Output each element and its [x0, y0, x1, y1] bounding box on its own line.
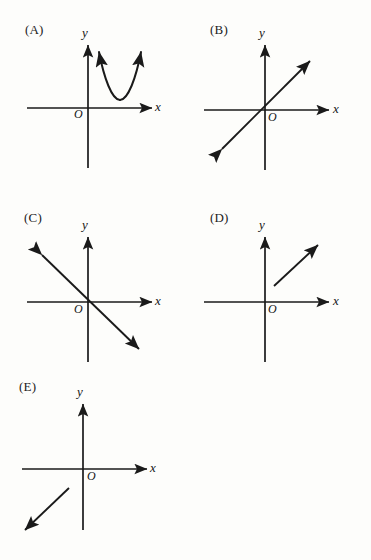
graph-a [0, 0, 186, 190]
graph-b [186, 0, 371, 190]
graph-e [0, 370, 186, 560]
origin-label-c: O [74, 302, 83, 317]
x-axis-label-b: x [333, 101, 339, 117]
y-axis-label-a: y [82, 25, 88, 41]
panel-e: (E) x y O [0, 370, 186, 560]
origin-label-b: O [268, 110, 277, 125]
figure-sheet: (A) x y O (B) [0, 0, 371, 560]
y-axis-label-e: y [77, 384, 83, 400]
x-axis-label-d: x [333, 293, 339, 309]
quadrant-one-ray-d [274, 245, 318, 286]
parabola-left-branch-a [99, 52, 120, 100]
panel-a: (A) x y O [0, 0, 186, 190]
y-axis-label-d: y [259, 217, 265, 233]
y-axis-label-c: y [82, 217, 88, 233]
panel-b: (B) x y O [186, 0, 371, 190]
origin-label-e: O [87, 469, 96, 484]
positive-slope-line-b [222, 61, 310, 149]
quadrant-three-ray-e [25, 488, 69, 530]
parabola-right-branch-a [120, 52, 141, 100]
x-axis-label-c: x [155, 293, 161, 309]
panel-c: (C) x y O [0, 190, 186, 380]
y-axis-label-b: y [259, 25, 265, 41]
x-axis-label-e: x [150, 460, 156, 476]
origin-label-d: O [268, 302, 277, 317]
origin-label-a: O [74, 107, 83, 122]
graph-c [0, 190, 186, 380]
panel-d: (D) x y O [186, 190, 371, 380]
x-axis-label-a: x [155, 99, 161, 115]
graph-d [186, 190, 371, 380]
